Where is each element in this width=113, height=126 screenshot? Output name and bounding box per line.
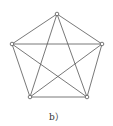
graph-edge: [87, 44, 102, 97]
graph-edge: [30, 14, 57, 97]
figure-caption: b）: [0, 110, 113, 123]
graph-edge: [57, 14, 87, 97]
graph-vertex: [28, 95, 32, 99]
graph-edges: [12, 14, 102, 97]
graph-edge: [12, 44, 30, 97]
graph-vertex: [100, 42, 104, 46]
graph-vertex: [85, 95, 89, 99]
graph-edge: [12, 14, 57, 44]
graph-vertex: [55, 12, 59, 16]
graph-vertex: [10, 42, 14, 46]
complete-graph-diagram: [0, 0, 113, 110]
graph-edge: [57, 14, 102, 44]
graph-edge: [30, 44, 102, 97]
graph-edge: [12, 44, 87, 97]
